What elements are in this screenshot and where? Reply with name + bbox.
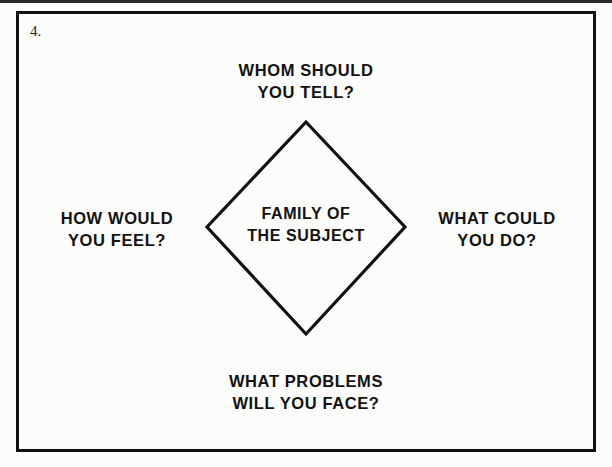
top-rule-divider xyxy=(0,0,612,3)
node-label-bottom: WHAT PROBLEMS WILL YOU FACE? xyxy=(176,370,436,414)
node-label-left: HOW WOULD YOU FEEL? xyxy=(26,207,208,251)
node-label-top: WHOM SHOULD YOU TELL? xyxy=(176,59,436,103)
item-number: 4. xyxy=(30,24,41,39)
diamond-center-label: FAMILY OF THE SUBJECT xyxy=(219,203,393,247)
worksheet-page: 4. WHOM SHOULD YOU TELL? HOW WOULD YOU F… xyxy=(0,0,612,467)
node-label-right: WHAT COULD YOU DO? xyxy=(406,207,588,251)
